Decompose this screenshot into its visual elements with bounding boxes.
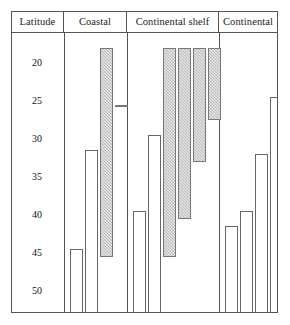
bar-continental-1: [225, 226, 238, 312]
y-axis-tick-25: 25: [24, 96, 50, 106]
group-divider-2: [127, 33, 128, 312]
column-header-continental: Continental: [219, 12, 277, 32]
plot-frame: 20253035404550: [11, 32, 278, 313]
bar-coastal-1: [70, 249, 83, 312]
plot-surface: 20253035404550: [12, 33, 277, 312]
bar-continental-shelf-5: [193, 48, 206, 162]
bar-coastal-2: [85, 150, 98, 312]
bar-coastal-3: [100, 48, 113, 257]
bar-continental-shelf-6: [208, 48, 221, 120]
y-axis-tick-40: 40: [24, 210, 50, 220]
y-axis-tick-50: 50: [24, 286, 50, 296]
bar-continental-3: [255, 154, 268, 312]
bar-continental-shelf-3: [163, 48, 176, 257]
latitude-range-chart: LatitudeCoastalContinental shelfContinen…: [0, 0, 290, 325]
y-axis-tick-20: 20: [24, 58, 50, 68]
bar-coastal-4: [115, 105, 128, 107]
bar-continental-shelf-1: [133, 211, 146, 312]
column-header-continental-shelf: Continental shelf: [127, 12, 219, 32]
bar-continental-2: [240, 211, 253, 312]
y-axis-tick-35: 35: [24, 172, 50, 182]
y-axis-tick-30: 30: [24, 134, 50, 144]
column-header-latitude: Latitude: [12, 12, 64, 32]
column-header-coastal: Coastal: [64, 12, 127, 32]
y-axis-tick-45: 45: [24, 248, 50, 258]
bar-continental-shelf-4: [178, 48, 191, 219]
bar-continental-shelf-2: [148, 135, 161, 312]
column-header-row: LatitudeCoastalContinental shelfContinen…: [11, 11, 278, 33]
bar-continental-4: [270, 97, 278, 312]
group-divider-1: [64, 33, 65, 312]
